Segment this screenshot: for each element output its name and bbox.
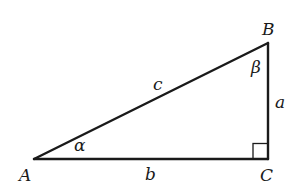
angle-label-beta: β — [250, 57, 261, 77]
vertex-label-c-upper: C — [260, 165, 273, 185]
right-angle-marker — [253, 144, 268, 160]
triangle-edges — [34, 43, 268, 159]
side-c-hypotenuse — [34, 43, 268, 159]
angle-label-alpha: α — [74, 135, 86, 155]
side-label-b: b — [145, 164, 156, 184]
side-label-c: c — [153, 74, 163, 94]
vertex-label-b-upper: B — [261, 19, 275, 39]
side-label-a: a — [275, 92, 285, 112]
right-triangle-diagram: A B C a b c α β — [0, 0, 299, 190]
vertex-label-a-upper: A — [17, 165, 31, 185]
